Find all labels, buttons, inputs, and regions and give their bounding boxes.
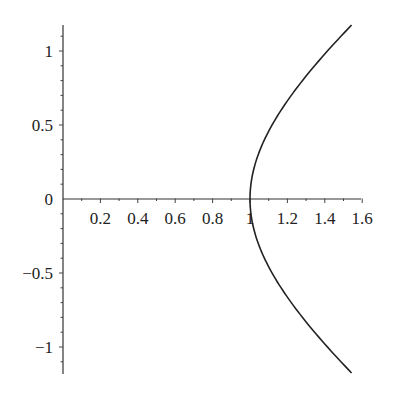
x-tick-label: 1.2 [277,209,298,228]
axes [63,25,361,374]
x-tick-label: 1.6 [352,209,373,228]
x-tick-label: 0.8 [202,209,223,228]
y-tick-label: −0.5 [22,264,53,283]
x-tick-label: 0.4 [127,209,149,228]
x-tick-label: 0.2 [90,209,111,228]
x-tick-label: 1.4 [314,209,336,228]
x-tick-label: 0.6 [165,209,186,228]
y-tick-label: 1 [45,42,54,61]
hyperbola-plot: 0.20.40.60.811.21.41.610.50−0.5−1 [0,0,398,397]
y-tick-label: 0.5 [32,116,53,135]
y-tick-label: −1 [35,338,53,357]
y-tick-label: 0 [45,190,54,209]
